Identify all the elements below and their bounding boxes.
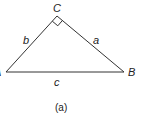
- right-angle-marker: [52, 21, 62, 26]
- figure-caption: (a): [55, 102, 67, 113]
- side-label-a: a: [93, 34, 99, 46]
- right-triangle-diagram: C A B b a c (a): [0, 0, 142, 120]
- vertex-label-a: A: [0, 66, 1, 78]
- side-label-c: c: [54, 76, 60, 88]
- side-label-b: b: [23, 34, 29, 46]
- side-b: [6, 16, 57, 72]
- vertex-label-c: C: [53, 2, 61, 14]
- side-a: [57, 16, 124, 72]
- vertex-label-b: B: [128, 66, 135, 78]
